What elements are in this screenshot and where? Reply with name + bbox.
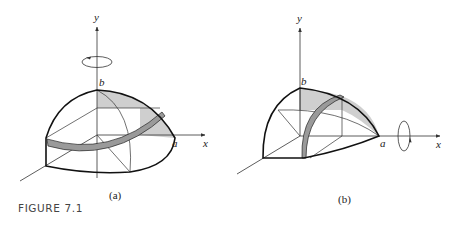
panel-a: y x b a (a) bbox=[20, 11, 208, 202]
point-a-label: a bbox=[380, 137, 386, 149]
guide-line bbox=[46, 108, 97, 138]
figure-canvas: y x b a (a) y x b a (b) bbox=[0, 0, 460, 225]
panel-a-caption: (a) bbox=[109, 189, 122, 202]
point-b-label: b bbox=[99, 76, 105, 88]
y-axis-label: y bbox=[93, 11, 99, 23]
y-axis-label: y bbox=[296, 12, 302, 24]
x-axis-label: x bbox=[202, 137, 208, 149]
x-axis-label: x bbox=[435, 138, 441, 150]
panel-b: y x b a (b) bbox=[237, 12, 441, 206]
guide-line bbox=[278, 110, 300, 136]
figure-label: FIGURE 7.1 bbox=[18, 202, 83, 214]
point-b-label: b bbox=[301, 75, 307, 87]
panel-b-caption: (b) bbox=[338, 193, 351, 206]
guide-line bbox=[310, 136, 342, 158]
point-a-label: a bbox=[172, 137, 178, 149]
z-axis bbox=[237, 136, 300, 174]
